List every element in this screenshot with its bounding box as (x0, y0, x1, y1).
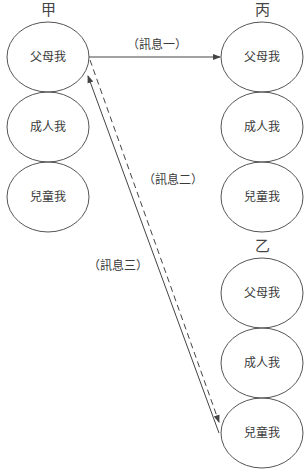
party-title-yi: 乙 (255, 237, 270, 255)
ego-state-parent: 父母我 (221, 22, 303, 92)
message-label: （訊息二） (143, 172, 203, 187)
ego-state-child: 兒童我 (221, 162, 303, 232)
ego-state-parent: 父母我 (7, 22, 89, 92)
party-title-bing: 丙 (255, 1, 270, 19)
ego-state-adult: 成人我 (221, 92, 303, 162)
arrow-solid-diagonal (88, 76, 219, 433)
ego-state-label: 兒童我 (30, 189, 66, 204)
party-yi: 乙 父母我 成人我 兒童我 (221, 237, 303, 468)
ego-state-label: 父母我 (244, 50, 280, 64)
ego-state-label: 父母我 (244, 286, 280, 300)
diagram-canvas: 甲 父母我 成人我 兒童我 丙 父母我 成人我 兒童我 乙 (0, 0, 306, 472)
message-label: （訊息三） (88, 258, 148, 273)
arrow-dashed-diagonal (90, 60, 219, 422)
ego-state-label: 兒童我 (244, 189, 280, 204)
ego-state-adult: 成人我 (7, 92, 89, 162)
party-bing: 丙 父母我 成人我 兒童我 (221, 1, 303, 232)
ego-state-label: 成人我 (244, 356, 280, 370)
ego-state-label: 父母我 (30, 50, 66, 64)
message-2: （訊息二） (90, 60, 219, 422)
message-3: （訊息三） (88, 76, 219, 433)
message-label: （訊息一） (127, 37, 187, 52)
message-1: （訊息一） (89, 37, 220, 57)
ego-state-adult: 成人我 (221, 328, 303, 398)
ego-state-child: 兒童我 (221, 398, 303, 468)
party-jia: 甲 父母我 成人我 兒童我 (7, 1, 89, 232)
ego-state-label: 成人我 (244, 120, 280, 134)
ego-state-parent: 父母我 (221, 258, 303, 328)
ego-state-label: 成人我 (30, 120, 66, 134)
party-title-jia: 甲 (41, 1, 56, 19)
ego-state-child: 兒童我 (7, 162, 89, 232)
ego-state-label: 兒童我 (244, 425, 280, 440)
